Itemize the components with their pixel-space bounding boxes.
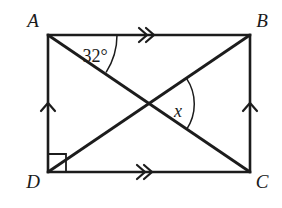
angle-arc-x bbox=[187, 78, 195, 129]
vertex-label-a: A bbox=[25, 10, 39, 31]
geometry-figure: A B C D 32° x bbox=[0, 0, 282, 208]
vertex-label-d: D bbox=[25, 171, 40, 192]
vertex-label-c: C bbox=[256, 171, 269, 192]
vertex-label-b: B bbox=[256, 10, 268, 31]
angle-arc-32 bbox=[106, 35, 117, 72]
angle-label-x: x bbox=[173, 101, 182, 121]
geometry-canvas: A B C D 32° x bbox=[0, 0, 282, 208]
angle-label-32: 32° bbox=[82, 46, 107, 66]
